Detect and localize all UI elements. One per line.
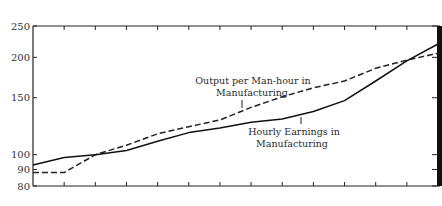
earnings-label-line2: Manufacturing [256, 138, 328, 149]
y-tick-label: 90 [17, 164, 30, 175]
x-axis-ticks [64, 26, 407, 186]
y-tick-label: 100 [11, 149, 30, 160]
y-tick-label: 150 [11, 92, 30, 103]
line-chart: 8090100150200250 Output per Man-hour in … [0, 0, 442, 206]
series-layer [33, 44, 438, 173]
hourly-earnings-line [33, 44, 438, 165]
y-axis: 8090100150200250 [11, 21, 437, 192]
output-label-line2: Manufacturing [216, 87, 288, 98]
right-edge-bar [437, 26, 442, 186]
earnings-label-line1: Hourly Earnings in [248, 126, 340, 137]
y-tick-label: 250 [11, 21, 30, 32]
output-label-line1: Output per Man-hour in [195, 75, 310, 86]
y-tick-label: 200 [11, 52, 30, 63]
y-tick-label: 80 [17, 181, 30, 192]
plot-frame [33, 26, 442, 186]
